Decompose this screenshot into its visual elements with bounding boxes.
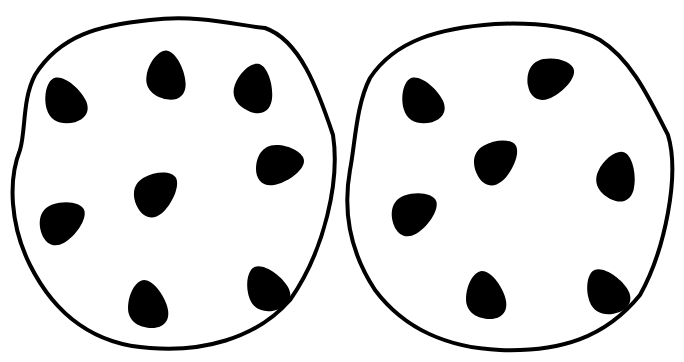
cookies-illustration: [0, 0, 684, 362]
